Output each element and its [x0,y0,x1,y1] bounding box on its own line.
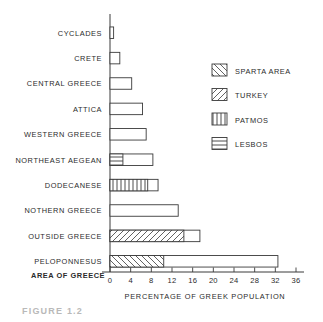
x-tick-label: 4 [128,276,132,285]
figure-caption: FIGURE 1.2 [22,306,83,316]
bar-group: NORTHEAST AEGEAN [15,154,152,166]
legend-label: SPARTA AREA [235,67,291,76]
figure-container: CYCLADESCRETECENTRAL GREECEATTICAWESTERN… [0,0,323,322]
legend-swatch [212,64,227,76]
bar [110,52,120,64]
category-label: NORTHEAST AEGEAN [15,156,102,165]
x-tick-label: 16 [188,276,197,285]
category-label: OUTSIDE GREECE [28,232,102,241]
category-label: CENTRAL GREECE [27,79,102,88]
category-label: CRETE [74,54,102,63]
x-axis-title: PERCENTAGE OF GREEK POPULATION [125,292,286,301]
bar-segment [110,154,123,166]
x-axis: 04812162024283236 [102,268,304,286]
x-tick-label: 12 [168,276,177,285]
x-tick-label: 20 [209,276,218,285]
bar-segment [110,230,184,242]
bar [110,205,178,217]
category-label: CYCLADES [58,29,102,38]
bar-group: CENTRAL GREECE [27,78,132,90]
bar [110,129,146,141]
category-label: ATTICA [73,105,102,114]
legend-swatch [212,113,227,125]
bar-group: CRETE [74,52,120,64]
y-axis-title: AREA OF GREECE [31,271,105,280]
legend-item: TURKEY [212,89,268,101]
legend-swatch [212,138,227,150]
x-tick-label: 36 [292,276,301,285]
bar-segment [110,256,164,267]
bar-group: ATTICA [73,103,143,115]
legend-label: PATMOS [235,116,268,125]
bar-chart: CYCLADESCRETECENTRAL GREECEATTICAWESTERN… [0,0,323,322]
bar [110,27,114,39]
x-tick-label: 24 [230,276,239,285]
legend-label: LESBOS [235,140,268,149]
x-tick-label: 0 [108,276,112,285]
legend-label: TURKEY [235,91,268,100]
bar [110,78,132,90]
bar-group: CYCLADES [58,27,114,39]
category-label: DODECANESE [45,181,102,190]
bar-segment [110,179,148,191]
x-tick-label: 28 [250,276,259,285]
x-tick-label: 8 [149,276,153,285]
bar-group: PELOPONNESUS [34,256,278,267]
chart-legend: SPARTA AREATURKEYPATMOSLESBOS [212,64,291,150]
bar-group: OUTSIDE GREECE [28,230,200,242]
bar-group: DODECANESE [45,179,158,191]
legend-swatch [212,89,227,101]
bar [110,103,143,115]
category-label: PELOPONNESUS [34,257,102,266]
category-label: NOTHERN GREECE [24,206,102,215]
legend-item: SPARTA AREA [212,64,291,76]
bar-group: WESTERN GREECE [24,129,146,141]
legend-item: LESBOS [212,138,268,150]
legend-item: PATMOS [212,113,268,125]
x-tick-label: 32 [271,276,280,285]
category-label: WESTERN GREECE [24,130,102,139]
bar-group: NOTHERN GREECE [24,205,178,217]
